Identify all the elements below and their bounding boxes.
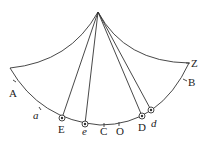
string-D: [98, 12, 142, 116]
left-cusp-curve: [10, 12, 98, 68]
label-C: C: [100, 125, 107, 137]
tick-a: [39, 107, 41, 110]
pendulum-diagram: Z A B a E e C O D d: [0, 0, 204, 143]
string-d: [98, 12, 151, 110]
tick-A: [13, 80, 16, 82]
label-O: O: [116, 125, 124, 137]
label-e: e: [82, 125, 87, 137]
string-E: [62, 12, 98, 118]
label-D: D: [138, 121, 146, 133]
tick-B: [183, 79, 187, 81]
label-d: d: [151, 117, 157, 129]
label-A: A: [9, 87, 17, 99]
label-B: B: [188, 76, 195, 88]
label-a: a: [33, 109, 39, 121]
label-E: E: [58, 123, 65, 135]
label-Z: Z: [191, 57, 198, 69]
